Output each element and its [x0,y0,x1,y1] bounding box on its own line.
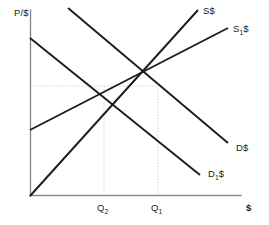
q2-label-base: Q [97,202,105,213]
guide-lines [30,86,158,196]
x-axis-label: $ [246,203,251,213]
exchange-rate-supply-demand-chart: P/$ $ S$ S1$ D$ D1$ Q2 Q1 [0,0,269,225]
demand-shifted-label-base: D [208,168,215,179]
q2-label-sub: 2 [105,208,109,215]
y-axis-label: P/$ [14,8,29,18]
demand-curve-d1 [30,38,200,175]
q1-label-base: Q [151,202,159,213]
x-tick-label-q1: Q1 [151,203,162,216]
demand-shifted-curve-label: D1$ [208,169,224,182]
demand-curve-label: D$ [236,143,248,153]
supply-curve-s [30,10,198,196]
demand-shifted-label-suffix: $ [219,168,224,179]
supply-curve-label: S$ [203,6,215,16]
demand-curve-d [68,8,228,143]
chart-canvas [0,0,269,225]
q1-label-sub: 1 [159,208,163,215]
x-tick-label-q2: Q2 [97,203,108,216]
supply-shifted-label-suffix: $ [243,23,248,34]
supply-shifted-curve-label: S1$ [233,24,249,37]
curves [30,8,228,196]
supply-curve-s1 [30,28,228,130]
